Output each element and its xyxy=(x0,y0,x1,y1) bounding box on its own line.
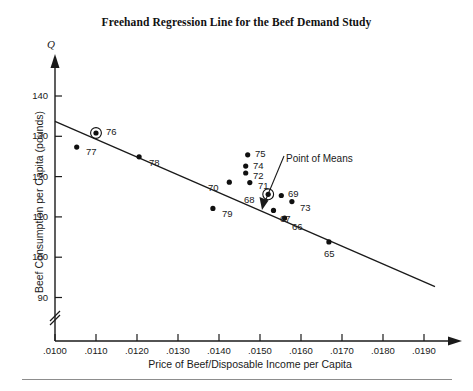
x-tick-label-0120: .0120 xyxy=(115,345,159,356)
data-point-75 xyxy=(245,152,250,157)
data-point-69 xyxy=(279,193,284,198)
data-point-label-65: 65 xyxy=(324,248,335,259)
x-axis-arrowhead xyxy=(448,337,462,346)
bottom-divider xyxy=(22,379,452,380)
x-tick-label-0170: .0170 xyxy=(320,345,364,356)
data-point-label-78: 78 xyxy=(149,157,160,168)
x-tick-label-0160: .0160 xyxy=(279,345,323,356)
data-point-label-71: 71 xyxy=(258,180,269,191)
data-point-73 xyxy=(289,199,294,204)
figure-container: Freehand Regression Line for the Beef De… xyxy=(0,0,473,391)
x-tick-label-0150: .0150 xyxy=(238,345,282,356)
data-point-74 xyxy=(243,164,248,169)
x-tick-label-0130: .0130 xyxy=(156,345,200,356)
x-tick-label-0190: .0190 xyxy=(402,345,446,356)
data-point-label-75: 75 xyxy=(255,148,266,159)
x-axis-title: Price of Beef/Disposable Income per Capi… xyxy=(60,358,440,370)
point-of-means-annotation: Point of Means xyxy=(286,153,353,164)
data-point-label-79: 79 xyxy=(222,208,233,219)
data-point-label-73: 73 xyxy=(300,202,311,213)
y-axis-arrowhead xyxy=(51,54,60,68)
data-point-79 xyxy=(210,206,215,211)
data-point-76 xyxy=(93,130,98,135)
data-point-77 xyxy=(74,145,79,150)
data-point-68 xyxy=(266,192,271,197)
data-point-71 xyxy=(247,180,252,185)
data-point-label-66: 66 xyxy=(292,221,303,232)
data-point-label-69: 69 xyxy=(288,188,299,199)
data-point-70 xyxy=(227,180,232,185)
plot-canvas xyxy=(0,0,473,391)
x-tick-label-0180: .0180 xyxy=(361,345,405,356)
data-point-label-76: 76 xyxy=(106,126,117,137)
data-point-72 xyxy=(243,170,248,175)
annotation-arrowhead xyxy=(260,197,269,210)
data-point-67 xyxy=(271,208,276,213)
data-point-65 xyxy=(326,239,331,244)
x-tick-label-0140: .0140 xyxy=(197,345,241,356)
data-point-label-77: 77 xyxy=(86,146,97,157)
x-tick-label-0100: .0100 xyxy=(33,345,77,356)
data-point-label-68: 68 xyxy=(244,194,255,205)
x-tick-label-0110: .0110 xyxy=(74,345,118,356)
data-point-label-70: 70 xyxy=(208,182,219,193)
data-point-label-67: 67 xyxy=(280,213,291,224)
data-point-78 xyxy=(137,154,142,159)
y-axis-title: Beef Consumption per Capita (pounds) xyxy=(33,77,45,327)
